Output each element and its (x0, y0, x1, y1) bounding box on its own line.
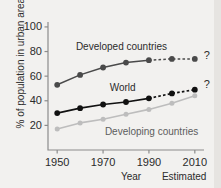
series-label-world: World (110, 83, 136, 93)
y-tick-label-100: 100 (18, 21, 42, 32)
x-tick-label-1990: 1990 (132, 157, 166, 168)
chart-series (54, 56, 197, 132)
urban-population-chart: % of population in urban areas 100 80 60… (0, 0, 221, 188)
y-tick-label-40: 40 (18, 95, 42, 106)
x-tick-label-1970: 1970 (86, 157, 120, 168)
question-mark-world: ? (204, 79, 210, 90)
y-tick-label-60: 60 (18, 71, 42, 82)
series-label-developed-countries: Developed countries (76, 42, 167, 52)
estimated-label: Estimated (162, 172, 206, 182)
x-axis-title: Year (121, 172, 141, 182)
y-tick-label-20: 20 (18, 120, 42, 131)
x-tick-label-1950: 1950 (40, 157, 74, 168)
series-label-developing-countries: Developing countries (105, 127, 198, 137)
y-tick-label-80: 80 (18, 46, 42, 57)
x-tick-label-2010: 2010 (178, 157, 212, 168)
question-mark-developed: ? (204, 50, 210, 61)
